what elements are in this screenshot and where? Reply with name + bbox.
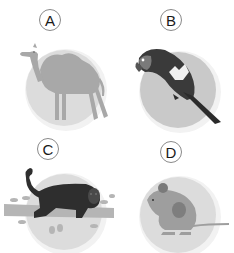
monkey-icon: [0, 126, 117, 252]
parrot-icon: [117, 0, 234, 126]
option-c-panel[interactable]: C: [0, 126, 117, 252]
camel-icon: [0, 0, 117, 126]
mouse-icon: [117, 126, 234, 252]
option-d-panel[interactable]: D: [117, 126, 234, 252]
option-a-panel[interactable]: A: [0, 0, 117, 126]
option-b-panel[interactable]: B: [117, 0, 234, 126]
